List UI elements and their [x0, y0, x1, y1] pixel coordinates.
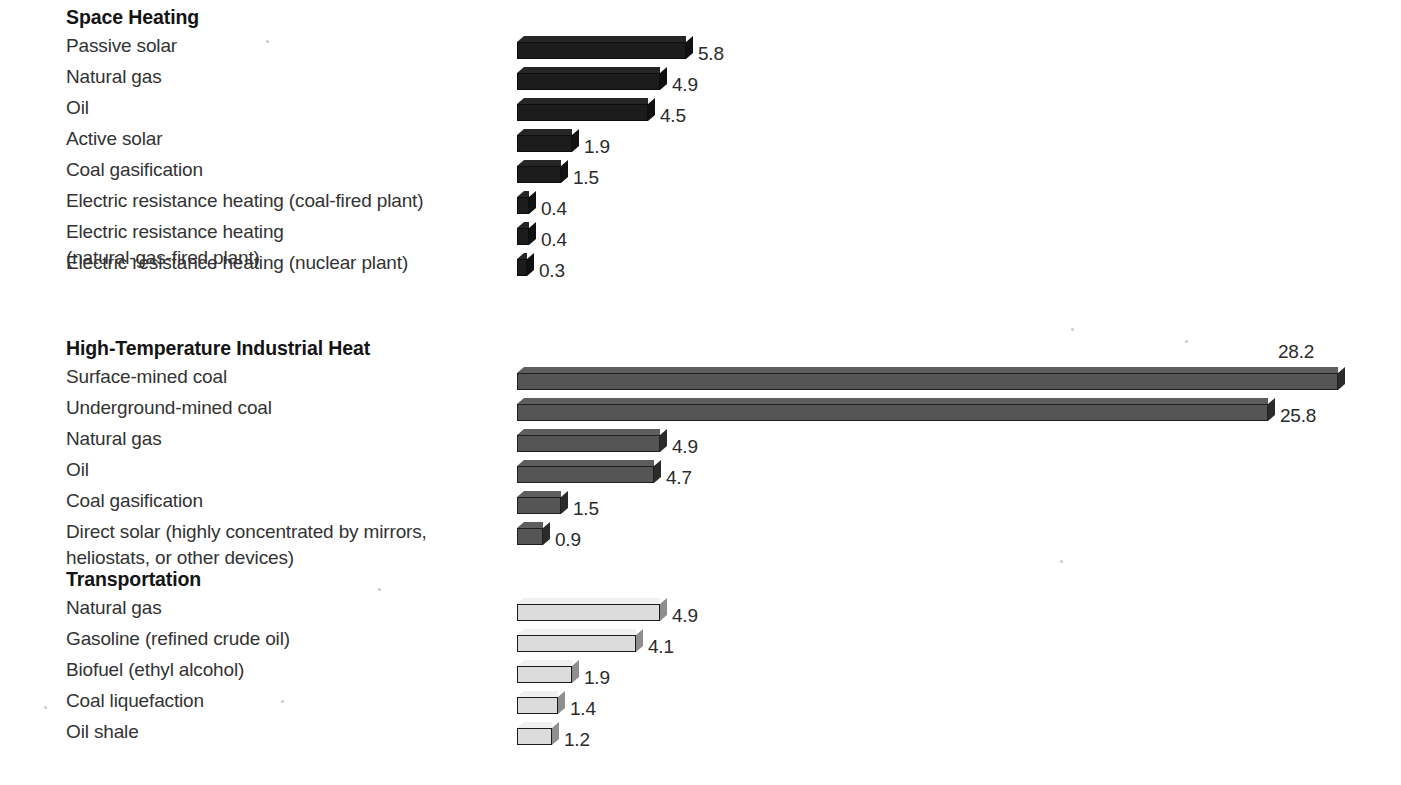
bar-side-face	[527, 253, 534, 276]
category-label: Natural gas	[66, 64, 162, 90]
category-label: Coal gasification	[66, 157, 203, 183]
bar-side-face	[1338, 367, 1345, 390]
bar	[517, 129, 572, 152]
bar-side-face	[686, 36, 693, 59]
bar	[517, 36, 686, 59]
category-label: Biofuel (ethyl alcohol)	[66, 657, 244, 683]
bar-front-face	[517, 42, 686, 59]
bar-front-face	[517, 373, 1338, 390]
bar	[517, 629, 636, 652]
bar-side-face	[558, 691, 565, 714]
bar-side-face	[529, 222, 536, 245]
chart-row: Electric resistance heating (nuclear pla…	[0, 250, 1401, 281]
bar-front-face	[517, 435, 660, 452]
bar-front-face	[517, 404, 1268, 421]
bar	[517, 98, 648, 121]
category-label: Electric resistance heating (coal-fired …	[66, 188, 423, 214]
bar	[517, 429, 660, 452]
chart-row: Natural gas4.9	[0, 426, 1401, 457]
bar-value-label: 4.9	[672, 73, 698, 96]
category-label: Coal gasification	[66, 488, 203, 514]
bar-value-label: 1.5	[573, 497, 599, 520]
bar-side-face	[529, 191, 536, 214]
chart-row: Natural gas4.9	[0, 64, 1401, 95]
bar-front-face	[517, 697, 558, 714]
bar-value-label: 0.4	[541, 197, 567, 220]
category-label: Gasoline (refined crude oil)	[66, 626, 290, 652]
bar	[517, 160, 561, 183]
chart-row: Surface-mined coal28.2	[0, 364, 1401, 395]
bar-front-face	[517, 604, 660, 621]
bar-side-face	[654, 460, 661, 483]
bar-side-face	[1268, 398, 1275, 421]
category-label: Electric resistance heating (nuclear pla…	[66, 250, 408, 276]
bar-front-face	[517, 135, 572, 152]
bar-value-label: 4.9	[672, 435, 698, 458]
bar-value-label: 4.7	[666, 466, 692, 489]
bar-front-face	[517, 73, 660, 90]
bar-side-face	[660, 598, 667, 621]
scan-speck	[1060, 560, 1063, 563]
bar	[517, 253, 527, 276]
chart-row: Oil4.7	[0, 457, 1401, 488]
bar	[517, 191, 529, 214]
bar-front-face	[517, 635, 636, 652]
category-label: Coal liquefaction	[66, 688, 204, 714]
bar-value-label: 4.1	[648, 635, 674, 658]
chart-row: Biofuel (ethyl alcohol)1.9	[0, 657, 1401, 688]
bar-side-face	[543, 522, 550, 545]
bar-side-face	[572, 660, 579, 683]
bar-value-label: 0.4	[541, 228, 567, 251]
chart-row: Electric resistance heating (coal-fired …	[0, 188, 1401, 219]
category-label: Active solar	[66, 126, 162, 152]
bar	[517, 660, 572, 683]
section-title: Space Heating	[66, 6, 199, 29]
chart-row: Coal liquefaction1.4	[0, 688, 1401, 719]
bar-value-label: 1.5	[573, 166, 599, 189]
scan-speck	[1071, 328, 1074, 331]
bar-front-face	[517, 104, 648, 121]
bar	[517, 367, 1338, 390]
bar-front-face	[517, 228, 529, 245]
bar	[517, 691, 558, 714]
bar-value-label: 1.4	[570, 697, 596, 720]
category-label: Oil	[66, 95, 89, 121]
bar-value-label: 4.9	[672, 604, 698, 627]
bar-side-face	[561, 160, 568, 183]
bar-side-face	[648, 98, 655, 121]
bar-value-label: 0.3	[539, 259, 565, 282]
bar	[517, 460, 654, 483]
bar-value-label: 4.5	[660, 104, 686, 127]
bar-front-face	[517, 197, 529, 214]
chart-row: Coal gasification1.5	[0, 488, 1401, 519]
chart-row: Electric resistance heating (natural-gas…	[0, 219, 1401, 250]
bar-side-face	[660, 67, 667, 90]
category-label: Direct solar (highly concentrated by mir…	[66, 519, 427, 571]
chart-row: Coal gasification1.5	[0, 157, 1401, 188]
bar-value-label: 5.8	[698, 42, 724, 65]
category-label: Surface-mined coal	[66, 364, 227, 390]
bar-value-label: 1.2	[564, 728, 590, 751]
bar-front-face	[517, 259, 527, 276]
bar-front-face	[517, 497, 561, 514]
bar-value-label: 25.8	[1280, 404, 1316, 427]
bar-front-face	[517, 728, 552, 745]
chart-row: Passive solar5.8	[0, 33, 1401, 64]
chart-row: Underground-mined coal25.8	[0, 395, 1401, 426]
bar-value-label: 0.9	[555, 528, 581, 551]
bar-side-face	[552, 722, 559, 745]
bar	[517, 598, 660, 621]
category-label: Underground-mined coal	[66, 395, 272, 421]
bar	[517, 522, 543, 545]
chart-row: Oil4.5	[0, 95, 1401, 126]
bar-side-face	[572, 129, 579, 152]
category-label: Oil	[66, 457, 89, 483]
bar-side-face	[636, 629, 643, 652]
chart-row: Oil shale1.2	[0, 719, 1401, 750]
bar-front-face	[517, 528, 543, 545]
bar-value-label: 28.2	[1278, 340, 1314, 363]
bar	[517, 722, 552, 745]
scan-speck	[378, 588, 381, 591]
category-label: Natural gas	[66, 426, 162, 452]
category-label: Oil shale	[66, 719, 139, 745]
